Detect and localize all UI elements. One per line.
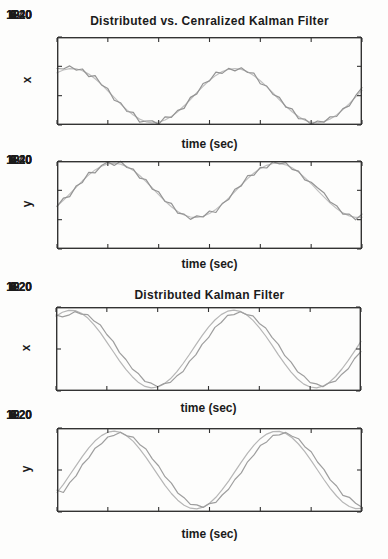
subplot-centralized-y: y time (sec) 024681012200-20-40 <box>0 153 388 280</box>
chart-title: Distributed vs. Cenralized Kalman Filter <box>57 14 362 28</box>
y-axis-label: x <box>19 341 33 355</box>
subplot-distributed-x: Distributed Kalman Filter x time (sec) 0… <box>0 280 388 408</box>
plot-area <box>57 161 362 249</box>
x-axis-label: time (sec) <box>57 257 362 271</box>
axes-box <box>57 308 361 391</box>
series-smooth-estimate-line <box>57 163 362 217</box>
plot-area <box>57 428 362 512</box>
y-axis-label: y <box>20 197 34 211</box>
series-smooth-estimate-line <box>57 69 362 123</box>
series-noisy-estimate-line <box>57 161 362 220</box>
plot-area <box>57 37 362 125</box>
subplot-distributed-y: y time (sec) 024681012200-20 <box>0 408 388 559</box>
y-tick-label: -20 <box>0 408 32 422</box>
y-tick-label: -20 <box>0 280 32 294</box>
subplot-centralized-x: Distributed vs. Cenralized Kalman Filter… <box>0 8 388 153</box>
x-axis-label: time (sec) <box>57 527 362 541</box>
series-estimate-line <box>57 432 362 507</box>
y-tick-label: -40 <box>0 153 32 167</box>
figure-page: Distributed vs. Cenralized Kalman Filter… <box>0 0 388 559</box>
y-axis-label: y <box>19 462 33 476</box>
series-estimate-line <box>56 312 361 387</box>
series-noisy-estimate-line <box>57 66 362 125</box>
axes-box <box>58 162 362 249</box>
x-axis-label: time (sec) <box>57 137 362 151</box>
y-tick-label: -20 <box>0 8 32 22</box>
series-state-line <box>56 310 361 388</box>
plot-area <box>56 307 361 391</box>
y-axis-label: x <box>20 73 34 87</box>
chart-title: Distributed Kalman Filter <box>57 288 362 302</box>
